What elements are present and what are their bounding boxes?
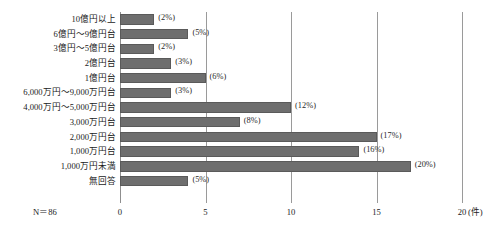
bar [120, 176, 188, 186]
sample-size-note: N＝86 [33, 205, 57, 219]
bar-row: (16%) [120, 144, 462, 159]
bar [120, 29, 188, 39]
bar-row: (12%) [120, 100, 462, 115]
x-tick-label: 0 [118, 205, 122, 219]
category-label: 6,000万円～9,000万円台 [23, 85, 116, 100]
bar [120, 102, 291, 112]
category-label: 2,000万円台 [70, 130, 116, 145]
chart-screenshot: 10億円以上6億円～9億円台3億円～5億円台2億円台1億円台6,000万円～9,… [0, 0, 497, 243]
bar [120, 161, 411, 171]
bar-value-label: (3%) [175, 84, 192, 99]
bar-value-label: (5%) [192, 173, 209, 188]
bar-row: (20%) [120, 159, 462, 174]
category-label: 無回答 [89, 174, 116, 189]
bar-row: (2%) [120, 12, 462, 27]
category-label: 1,000万円台 [70, 144, 116, 159]
bar-value-label: (16%) [363, 143, 384, 158]
bar-value-label: (2%) [158, 11, 175, 26]
category-label: 3,000万円台 [70, 115, 116, 130]
bar-row: (5%) [120, 27, 462, 42]
bar-row: (8%) [120, 115, 462, 130]
x-axis-unit-label: (件) [468, 205, 483, 219]
y-axis-category-labels: 10億円以上6億円～9億円台3億円～5億円台2億円台1億円台6,000万円～9,… [0, 12, 116, 203]
bar-row: (3%) [120, 85, 462, 100]
bar [120, 117, 240, 127]
category-label: 2億円台 [85, 56, 116, 71]
x-tick-label: 5 [203, 205, 207, 219]
bar-row: (2%) [120, 41, 462, 56]
bar-value-label: (17%) [381, 129, 402, 144]
category-label: 3億円～5億円台 [53, 41, 116, 56]
bar-row: (3%) [120, 56, 462, 71]
category-label: 10億円以上 [71, 12, 116, 27]
bar-rows: (2%)(5%)(2%)(3%)(6%)(3%)(12%)(8%)(17%)(1… [120, 12, 462, 203]
plot-area: (2%)(5%)(2%)(3%)(6%)(3%)(12%)(8%)(17%)(1… [120, 12, 462, 203]
bar [120, 88, 171, 98]
category-label: 1億円台 [85, 71, 116, 86]
x-axis-tick-labels: 05101520(件) [0, 205, 497, 221]
category-label: 6億円～9億円台 [53, 27, 116, 42]
bar [120, 44, 154, 54]
bar-value-label: (5%) [192, 26, 209, 41]
bar-value-label: (2%) [158, 40, 175, 55]
bar-value-label: (12%) [295, 99, 316, 114]
bar-value-label: (3%) [175, 55, 192, 70]
bar-value-label: (8%) [244, 114, 261, 129]
x-tick-label: 10 [287, 205, 296, 219]
bar-row: (5%) [120, 174, 462, 189]
gridline-20 [462, 12, 463, 203]
bar [120, 14, 154, 24]
category-label: 4,000万円～5,000万円台 [23, 100, 116, 115]
x-tick-label: 15 [372, 205, 381, 219]
category-label: 1,000万円未満 [61, 159, 116, 174]
x-tick-label: 20 [458, 205, 467, 219]
bar [120, 132, 377, 142]
bar-value-label: (6%) [210, 70, 227, 85]
bar-row: (17%) [120, 130, 462, 145]
bar [120, 58, 171, 68]
bar [120, 146, 359, 156]
bar [120, 73, 206, 83]
bar-row: (6%) [120, 71, 462, 86]
bar-value-label: (20%) [415, 158, 436, 173]
